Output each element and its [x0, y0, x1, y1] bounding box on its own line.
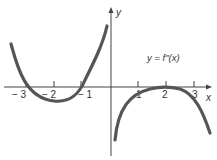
x-axis-arrow-icon — [206, 85, 212, 90]
x-axis-label: x — [205, 92, 212, 103]
x-tick-label: 2 — [162, 89, 168, 100]
x-tick-label: − 3 — [12, 89, 27, 100]
function-label: y = f″(x) — [146, 52, 180, 63]
chart: − 3 − 2 − 1 1 2 3 x y y = f″(x) — [0, 0, 217, 160]
y-axis-arrow-icon — [109, 7, 114, 13]
y-axis-label: y — [115, 7, 122, 18]
